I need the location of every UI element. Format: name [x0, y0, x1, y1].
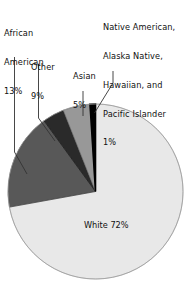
slice-label-other: Other 9% [31, 44, 55, 121]
slice-label-other-line1: Other [31, 63, 55, 73]
slice-label-native-american-line1: Native American, [103, 23, 175, 33]
slice-label-native-american-line3: Hawaiian, and [103, 81, 175, 91]
slice-label-native-american-percent: 1% [103, 138, 175, 148]
slice-label-african-american-line1: African [4, 29, 44, 39]
pie-chart-figure: African American 13% Other 9% Asian 5% N… [0, 0, 194, 291]
slice-label-native-american-line4: Pacific Islander [103, 110, 175, 120]
slice-label-other-percent: 9% [31, 92, 55, 102]
slice-label-asian-percent: 5% [73, 101, 96, 111]
slice-label-asian: Asian 5% [73, 53, 96, 130]
slice-label-native-american: Native American, Alaska Native, Hawaiian… [103, 4, 175, 167]
slice-label-white: White 72% [84, 221, 129, 231]
slice-label-asian-line1: Asian [73, 72, 96, 82]
slice-label-native-american-line2: Alaska Native, [103, 52, 175, 62]
